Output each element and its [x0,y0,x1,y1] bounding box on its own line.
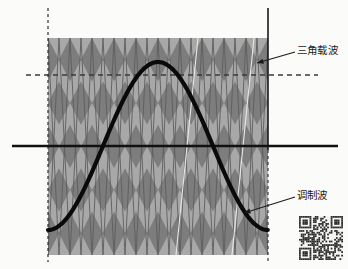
qr-module [325,258,327,260]
qr-module [320,242,322,244]
qr-module [324,216,326,218]
qr-module [317,227,319,229]
waveform-figure [0,0,348,269]
qr-module [304,220,306,222]
qr-module [306,221,308,223]
qr-module [338,241,340,243]
qr-module [332,258,334,260]
qr-module [318,241,320,243]
qr-module [308,235,310,237]
qr-module [338,220,340,222]
qr-module [336,220,338,222]
qr-module [324,244,326,246]
qr-module [334,244,336,246]
qr-module [317,241,319,243]
qr-module [310,230,312,232]
qr-module [336,230,338,232]
qr-module [301,234,303,236]
qr-module [339,239,341,241]
qr-module [310,255,312,257]
qr-module [311,230,313,232]
qr-module [310,227,312,229]
qr-module [341,239,343,241]
qr-module [341,220,343,222]
qr-module [303,227,305,229]
qr-module [315,225,317,227]
qr-module [299,225,301,227]
qr-module [331,241,333,243]
qr-module [313,258,315,260]
qr-module [313,256,315,258]
qr-module [325,228,327,230]
qr-module [308,234,310,236]
qr-module [329,251,331,253]
qr-module [325,244,327,246]
qr-module [315,251,317,253]
qr-module [317,228,319,230]
qr-module [303,242,305,244]
qr-module [303,248,305,250]
qr-module [325,249,327,251]
qr-module [320,234,322,236]
qr-module [318,249,320,251]
qr-module [303,255,305,257]
qr-module [329,232,331,234]
qr-module [301,239,303,241]
qr-module [318,239,320,241]
qr-module [308,232,310,234]
qr-module [341,235,343,237]
qr-module [324,248,326,250]
qr-module [341,216,343,218]
qr-module [306,241,308,243]
qr-module [317,218,319,220]
qr-module [301,258,303,260]
qr-module [303,220,305,222]
qr-module [317,248,319,250]
qr-module [311,241,313,243]
qr-module [313,227,315,229]
qr-module [313,237,315,239]
qr-module [318,253,320,255]
qr-module [322,237,324,239]
qr-module [331,244,333,246]
qr-module [303,258,305,260]
qr-module [341,225,343,227]
qr-module [299,258,301,260]
qr-module [332,255,334,257]
qr-module [318,234,320,236]
qr-module [332,216,334,218]
qr-module [338,255,340,257]
qr-module [325,255,327,257]
qr-module [311,232,313,234]
qr-module [303,241,305,243]
qr-module [334,220,336,222]
qr-module [320,227,322,229]
qr-module [341,232,343,234]
qr-module [338,244,340,246]
qr-module [327,246,329,248]
qr-module [318,223,320,225]
qr-module [299,249,301,251]
qr-module [336,241,338,243]
qr-module [313,228,315,230]
qr-module [313,225,315,227]
qr-module [338,227,340,229]
qr-module [301,248,303,250]
qr-module [306,239,308,241]
qr-module [299,255,301,257]
qr-module [313,248,315,250]
qr-module [331,221,333,223]
qr-module [324,234,326,236]
qr-module [322,241,324,243]
qr-module [324,235,326,237]
qr-module [341,255,343,257]
qr-module [318,255,320,257]
qr-module [334,251,336,253]
qr-module [336,246,338,248]
qr-module [313,234,315,236]
qr-code[interactable] [299,216,343,260]
qr-module [338,248,340,250]
qr-module [304,239,306,241]
qr-module [329,253,331,255]
qr-module [324,237,326,239]
